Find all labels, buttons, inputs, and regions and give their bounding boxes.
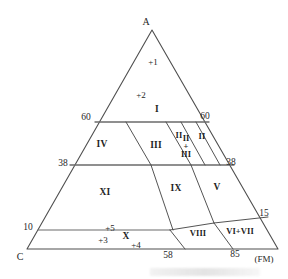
data-point-1: +1: [148, 58, 158, 67]
vertex-label-c: C: [17, 252, 24, 262]
divider-xi-ix: [151, 165, 173, 230]
divider-iv-iii: [126, 122, 151, 165]
region-label-x: X: [122, 232, 129, 242]
axis-tick-right-15: 15: [259, 209, 269, 219]
axis-tick-left-38: 38: [58, 159, 68, 169]
axis-tick-left-60: 60: [81, 113, 91, 123]
region-label-v: V: [213, 183, 220, 193]
region-label-viii: VIII: [190, 229, 206, 238]
ternary-diagram: A C (FM) 60 60 38 38 10 15 58 85 IIVIIII…: [0, 0, 288, 279]
axis-tick-right-38: 38: [226, 158, 236, 168]
vertex-label-a: A: [142, 17, 149, 27]
region-label-vi_vii: VI+VII: [226, 227, 254, 236]
region-label-ix: IX: [171, 184, 182, 194]
data-point-2: +2: [136, 91, 146, 100]
region-label-ii-plus-iii-line: III: [181, 150, 191, 158]
region-label-ii-plus-iii: II+III: [181, 134, 191, 158]
axis-tick-left-10: 10: [23, 223, 33, 233]
divider-ix-v: [191, 165, 214, 223]
region-label-ii_b: II: [199, 132, 206, 141]
vertex-label-fm: (FM): [254, 255, 273, 264]
axis-tick-bottom-58: 58: [163, 251, 173, 261]
data-point-4: +4: [131, 241, 141, 250]
ternary-diagram-lines: [0, 0, 288, 279]
region-label-iv: IV: [97, 140, 108, 150]
divider-iiplus-ii2: [196, 122, 220, 165]
divider-x-viii: [170, 230, 185, 249]
axis-tick-right-60: 60: [200, 112, 210, 122]
region-label-i: I: [155, 105, 159, 115]
axis-tick-bottom-85: 85: [230, 250, 240, 260]
data-point-5: +5: [105, 224, 115, 233]
scan-artifact: [150, 268, 260, 276]
data-point-3: +3: [98, 236, 108, 245]
region-label-xi: XI: [100, 188, 111, 198]
region-label-iii: III: [150, 141, 162, 151]
